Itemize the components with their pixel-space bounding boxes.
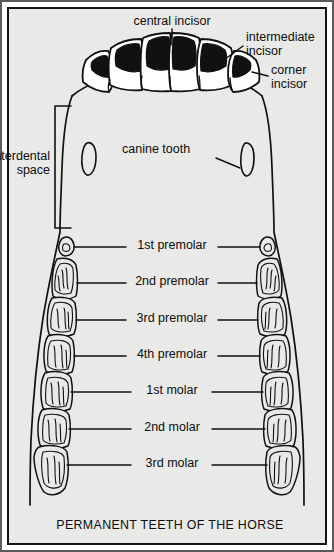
label-2nd-premolar: 2nd premolar [135,275,209,289]
incisor-arcade [83,33,260,92]
label-central-incisor: central incisor [133,15,210,29]
label-interdental-space-line2: space [17,164,50,178]
tooth-right-1st-premolar [260,237,275,256]
tooth-left-2nd-premolar [52,258,77,299]
tooth-right-3rd-molar [266,446,300,495]
tooth-left-4th-premolar [44,335,74,375]
label-4th-premolar: 4th premolar [137,348,207,362]
label-1st-molar: 1st molar [146,384,197,398]
tooth-left-2nd-molar [38,409,70,449]
horse-teeth-diagram: central incisor intermediate incisor cor… [0,0,334,552]
tooth-right-3rd-premolar [258,297,287,337]
label-canine-tooth: canine tooth [122,143,190,157]
label-3rd-molar: 3rd molar [146,457,199,471]
incisor-intermediate-left [109,39,145,90]
tooth-left-1st-molar [41,372,72,412]
tooth-right-4th-premolar [260,335,290,375]
label-interdental-space-line1: interdental [0,150,50,164]
label-intermediate-incisor-line1: intermediate [246,31,315,45]
label-corner-incisor-line1: corner [271,64,306,78]
label-1st-premolar: 1st premolar [137,239,206,253]
tooth-right-2nd-premolar [257,258,282,299]
label-2nd-molar: 2nd molar [144,421,200,435]
leader-canine-tooth [216,158,240,168]
label-3rd-premolar: 3rd premolar [137,312,208,326]
canine-right [241,143,254,176]
tooth-right-2nd-molar [264,409,296,449]
cheek-teeth-right [257,237,301,495]
label-intermediate-incisor-line2: incisor [246,45,282,59]
figure-caption: PERMANENT TEETH OF THE HORSE [56,518,283,532]
canine-left [82,143,96,175]
tooth-right-1st-molar [262,372,293,412]
tooth-left-3rd-premolar [47,297,76,337]
tooth-left-3rd-molar [34,446,68,495]
label-corner-incisor-line2: incisor [271,78,307,92]
tooth-left-1st-premolar [59,237,74,256]
